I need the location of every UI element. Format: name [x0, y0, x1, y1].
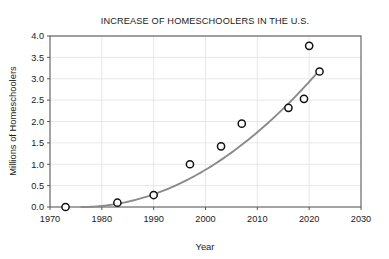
- y-tick-label: 1.5: [31, 138, 44, 148]
- data-point-marker: [62, 203, 69, 210]
- gridlines-group: [50, 36, 361, 207]
- data-point-marker: [186, 161, 193, 168]
- y-axis-title: Millions of Homeschoolers: [7, 66, 18, 176]
- chart-title: INCREASE OF HOMESCHOOLERS IN THE U.S.: [101, 16, 310, 26]
- homeschoolers-scatter-chart: INCREASE OF HOMESCHOOLERS IN THE U.S. 0.…: [0, 0, 389, 259]
- x-tick-label: 2020: [299, 214, 319, 224]
- data-point-marker: [316, 68, 323, 75]
- y-tick-label: 0.5: [31, 181, 44, 191]
- x-tick-label: 2000: [195, 214, 215, 224]
- data-point-marker: [285, 104, 292, 111]
- x-tick-label: 1970: [40, 214, 60, 224]
- y-tick-label: 3.5: [31, 53, 44, 63]
- data-point-marker: [238, 120, 245, 127]
- y-tick-label: 2.0: [31, 117, 44, 127]
- y-axis-ticks-group: 0.00.51.01.52.02.53.03.54.0: [31, 31, 50, 212]
- y-tick-label: 2.5: [31, 95, 44, 105]
- y-tick-label: 4.0: [31, 31, 44, 41]
- data-point-marker: [114, 199, 121, 206]
- y-tick-label: 1.0: [31, 160, 44, 170]
- x-axis-ticks-group: 1970198019902000201020202030: [40, 207, 371, 224]
- x-tick-label: 1980: [92, 214, 112, 224]
- data-point-marker: [300, 95, 307, 102]
- y-tick-label: 0.0: [31, 202, 44, 212]
- data-point-marker: [150, 191, 157, 198]
- x-tick-label: 1990: [143, 214, 163, 224]
- data-point-marker: [217, 143, 224, 150]
- x-axis-title: Year: [196, 241, 215, 252]
- trend-curve: [81, 70, 319, 207]
- data-point-marker: [306, 42, 313, 49]
- y-tick-label: 3.0: [31, 74, 44, 84]
- chart-container: INCREASE OF HOMESCHOOLERS IN THE U.S. 0.…: [0, 0, 389, 259]
- x-tick-label: 2030: [351, 214, 371, 224]
- x-tick-label: 2010: [247, 214, 267, 224]
